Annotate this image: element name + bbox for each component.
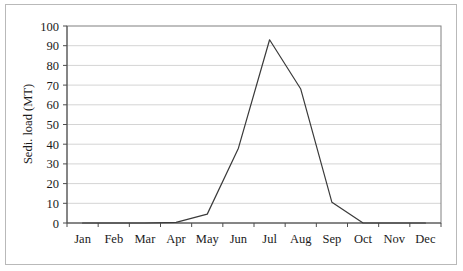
x-axis-tick-label: Sep: [323, 232, 342, 246]
y-axis-tick-label: 40: [47, 138, 60, 152]
x-axis-tick-label: Jan: [74, 232, 91, 246]
x-axis-tick-label: Dec: [415, 232, 436, 246]
x-axis-tick-label: Mar: [135, 232, 157, 246]
x-axis-tick-label: Apr: [166, 232, 186, 246]
x-axis-tick-label: Nov: [383, 232, 405, 246]
y-axis-ticks: 0102030405060708090100: [40, 20, 67, 231]
x-axis-tick-label: Aug: [290, 232, 312, 246]
y-axis-tick-label: 0: [53, 217, 59, 231]
y-axis-tick-label: 90: [47, 39, 60, 53]
chart-figure: 0102030405060708090100 JanFebMarAprMayJu…: [0, 0, 463, 271]
x-axis-ticks: JanFebMarAprMayJunJulAugSepOctNovDec: [67, 223, 441, 246]
y-axis-tick-label: 10: [47, 197, 60, 211]
x-axis-tick-label: Feb: [104, 232, 123, 246]
x-axis-tick-label: Oct: [354, 232, 373, 246]
sediment-load-line-chart: 0102030405060708090100 JanFebMarAprMayJu…: [0, 0, 463, 271]
x-axis-tick-label: May: [196, 232, 220, 246]
y-axis-tick-label: 20: [47, 177, 60, 191]
y-axis-tick-label: 70: [47, 79, 60, 93]
y-axis-tick-label: 100: [40, 20, 59, 34]
y-axis-tick-label: 80: [47, 59, 60, 73]
x-axis-tick-label: Jun: [230, 232, 248, 246]
y-axis-tick-label: 50: [47, 118, 60, 132]
y-axis-tick-label: 30: [47, 157, 60, 171]
x-axis-tick-label: Jul: [262, 232, 277, 246]
y-axis-title: Sedi. load (MT): [21, 84, 35, 164]
y-axis-tick-label: 60: [47, 98, 60, 112]
